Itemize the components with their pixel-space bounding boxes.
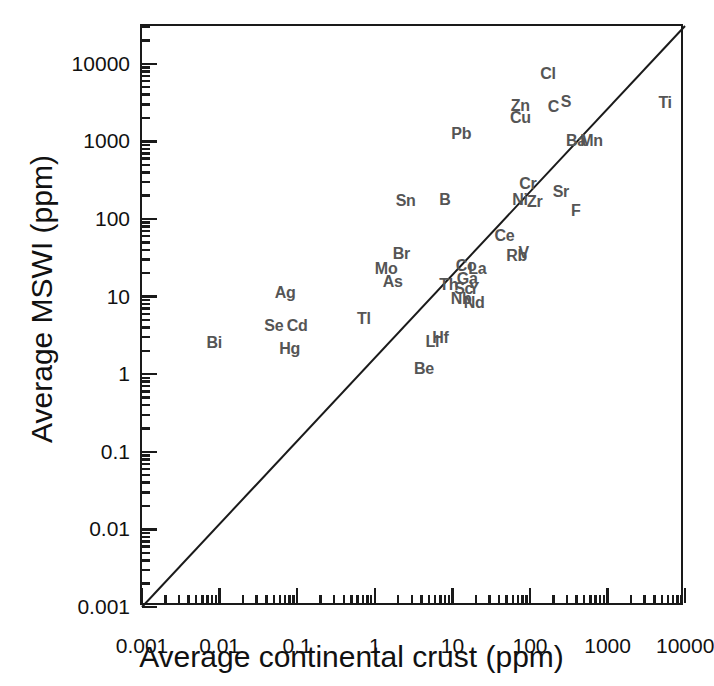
x-tick-major <box>218 588 221 603</box>
y-tick-minor <box>142 468 150 471</box>
y-tick-minor <box>142 26 150 29</box>
y-tick-minor <box>142 241 150 244</box>
y-tick-minor <box>142 491 150 494</box>
x-tick-minor <box>667 595 670 603</box>
x-tick-minor <box>284 595 287 603</box>
y-tick-minor <box>142 474 150 477</box>
data-point-pb: Pb <box>451 126 471 142</box>
y-tick-minor <box>142 536 150 539</box>
data-point-ag: Ag <box>275 285 296 301</box>
y-tick-minor <box>142 80 150 83</box>
x-tick-minor <box>428 595 431 603</box>
y-tick-minor <box>142 66 150 69</box>
data-point-be: Be <box>414 361 434 377</box>
y-tick-minor <box>142 336 150 339</box>
y-tick-minor <box>142 532 150 535</box>
x-tick-minor <box>672 595 675 603</box>
y-tick-label: 100 <box>95 207 130 231</box>
x-tick-minor <box>350 595 353 603</box>
x-tick-minor <box>475 595 478 603</box>
y-tick-minor <box>142 75 150 78</box>
x-tick-minor <box>643 595 646 603</box>
data-point-f: F <box>571 203 580 219</box>
x-tick-minor <box>552 595 555 603</box>
x-tick-minor <box>566 595 569 603</box>
x-tick-major <box>529 588 532 603</box>
x-tick-minor <box>603 595 606 603</box>
x-tick-minor <box>292 595 295 603</box>
x-tick-label: 10 <box>441 634 464 658</box>
x-tick-minor <box>242 595 245 603</box>
x-tick-minor <box>512 595 515 603</box>
y-tick-minor <box>142 404 150 407</box>
y-tick-minor <box>142 221 150 224</box>
data-point-nd: Nd <box>464 295 485 311</box>
y-tick-minor <box>142 181 150 184</box>
x-tick-minor <box>164 595 167 603</box>
y-tick-label: 1 <box>118 362 130 386</box>
y-tick-minor <box>142 272 150 275</box>
data-point-as: As <box>383 274 403 290</box>
x-tick-minor <box>599 595 602 603</box>
data-point-cu: Cu <box>510 110 531 126</box>
y-tick-minor <box>142 86 150 89</box>
y-tick-minor <box>142 385 150 388</box>
x-tick-minor <box>448 595 451 603</box>
y-tick-minor <box>142 307 150 310</box>
data-point-sr: Sr <box>553 184 569 200</box>
x-tick-minor <box>583 595 586 603</box>
x-tick-minor <box>215 595 218 603</box>
x-tick-minor <box>653 595 656 603</box>
data-point-la: La <box>468 261 486 277</box>
y-tick-major <box>142 451 157 454</box>
x-tick-minor <box>411 595 414 603</box>
x-tick-label: 1000 <box>584 634 631 658</box>
y-tick-label: 10 <box>107 285 130 309</box>
data-point-hf: Hf <box>432 330 448 346</box>
x-tick-minor <box>444 595 447 603</box>
data-point-b: B <box>439 192 450 208</box>
y-tick-major <box>142 373 157 376</box>
data-point-ti: Ti <box>658 95 671 111</box>
y-tick-label: 0.1 <box>101 440 130 464</box>
y-tick-minor <box>142 148 150 151</box>
x-tick-major <box>684 588 687 603</box>
data-point-br: Br <box>393 246 410 262</box>
x-tick-minor <box>630 595 633 603</box>
x-tick-minor <box>680 595 683 603</box>
y-tick-minor <box>142 505 150 508</box>
data-point-ce: Ce <box>495 228 515 244</box>
y-tick-major <box>142 606 157 609</box>
x-tick-label: 0.01 <box>199 634 240 658</box>
y-tick-label: 0.01 <box>89 517 130 541</box>
x-tick-minor <box>488 595 491 603</box>
y-axis-title: Average MSWI (ppm) <box>25 0 59 599</box>
x-tick-minor <box>498 595 501 603</box>
y-tick-minor <box>142 380 150 383</box>
y-tick-major <box>142 218 157 221</box>
y-tick-minor <box>142 377 150 380</box>
y-tick-minor <box>142 414 150 417</box>
y-tick-minor <box>142 235 150 238</box>
x-tick-minor <box>521 595 524 603</box>
x-tick-minor <box>195 595 198 603</box>
x-tick-major <box>374 588 377 603</box>
y-tick-minor <box>142 454 150 457</box>
data-point-ni: Ni <box>512 192 527 208</box>
y-tick-major <box>142 295 157 298</box>
data-point-v: V <box>519 245 529 261</box>
x-tick-minor <box>370 595 373 603</box>
x-tick-label: 100 <box>512 634 547 658</box>
y-tick-major <box>142 140 157 143</box>
y-tick-minor <box>142 559 150 562</box>
y-tick-minor <box>142 569 150 572</box>
data-point-c: C <box>548 99 559 115</box>
x-tick-minor <box>356 595 359 603</box>
x-tick-major <box>296 588 299 603</box>
x-tick-minor <box>525 595 528 603</box>
x-tick-minor <box>201 595 204 603</box>
x-tick-label: 0.1 <box>283 634 312 658</box>
y-tick-minor <box>142 152 150 155</box>
x-tick-minor <box>362 595 365 603</box>
